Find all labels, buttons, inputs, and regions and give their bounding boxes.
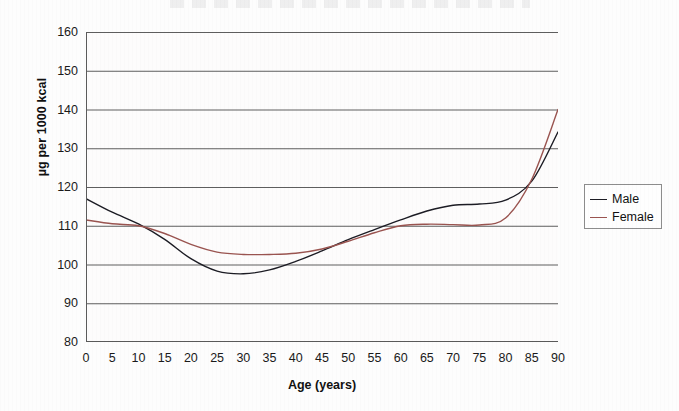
series-line-female [86, 110, 558, 255]
series-line-male [86, 132, 558, 274]
plot-area [86, 32, 558, 342]
data-series [86, 110, 558, 274]
legend-label: Male [612, 193, 639, 206]
x-axis-title: Age (years) [86, 378, 558, 392]
y-tick-label: 80 [44, 336, 78, 349]
y-tick-label: 90 [44, 297, 78, 310]
chart-legend[interactable]: MaleFemale [584, 184, 662, 229]
legend-swatch-icon [590, 199, 607, 200]
legend-item-male[interactable]: Male [590, 190, 657, 208]
x-tick-label: 90 [543, 352, 573, 365]
legend-swatch-icon [590, 217, 607, 218]
y-tick-label: 120 [44, 181, 78, 194]
y-tick-label: 110 [44, 220, 78, 233]
y-tick-label: 150 [44, 65, 78, 78]
gridlines [86, 33, 558, 343]
y-tick-label: 160 [44, 26, 78, 39]
y-tick-label: 100 [44, 258, 78, 271]
cropped-title-artifact [170, 0, 530, 8]
y-tick-label: 140 [44, 103, 78, 116]
chart-figure: µg per 1000 kcal Age (years) 80901001101… [0, 0, 679, 411]
legend-label: Female [612, 211, 654, 224]
y-tick-label: 130 [44, 142, 78, 155]
legend-item-female[interactable]: Female [590, 208, 657, 226]
chart-canvas [86, 32, 558, 342]
